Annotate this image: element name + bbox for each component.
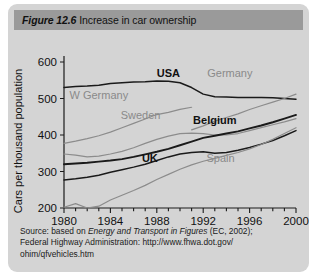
figure-card: Figure 12.6 Increase in car ownership 20… [8,4,309,272]
series-label-sweden: Sweden [121,109,161,121]
source-publication-title: Energy and Transport in Figures [88,226,207,236]
source-line-1: Source: based on Energy and Transport in… [20,226,300,237]
figure-title: Figure 12.6 Increase in car ownership [14,14,196,26]
series-label-germany: Germany [207,67,253,79]
chart-plot-area: 200300400500600198019841988199219962000C… [8,30,309,226]
figure-title-bar: Figure 12.6 Increase in car ownership [14,10,303,30]
x-tick-label: 1980 [51,215,77,226]
x-tick-label: 2000 [283,215,309,226]
y-tick-label: 600 [38,56,57,68]
x-tick-label: 1992 [190,215,216,226]
figure-number: Figure 12.6 [22,14,76,26]
series-line-belgium [64,115,296,164]
series-label-usa: USA [157,67,180,79]
y-tick-label: 500 [38,93,57,105]
y-axis-title: Cars per thousand population [12,69,24,213]
series-line-uk [64,131,296,180]
car-ownership-line-chart: 200300400500600198019841988199219962000C… [8,30,309,226]
source-line-1-prefix: Source: based on [20,226,88,236]
series-label-belgium: Belgium [193,114,237,126]
x-tick-label: 1996 [237,215,263,226]
y-tick-label: 300 [38,166,57,178]
y-tick-label: 200 [38,202,57,214]
source-line-1-suffix: (EC, 2002); [207,226,252,236]
series-line-sweden [64,119,296,157]
source-line-2: Federal Highway Administration: http://w… [20,237,300,248]
source-line-3: ohim/qfvehicles.htm [20,249,300,260]
y-tick-label: 400 [38,129,57,141]
series-line-spain [64,128,296,208]
x-tick-label: 1984 [98,215,124,226]
series-label-spain: Spain [207,152,235,164]
x-tick-label: 1988 [144,215,170,226]
figure-source-note: Source: based on Energy and Transport in… [20,226,300,260]
series-label-w-germany: W Germany [69,89,128,101]
figure-title-text: Increase in car ownership [79,14,196,26]
series-label-uk: UK [142,152,158,164]
